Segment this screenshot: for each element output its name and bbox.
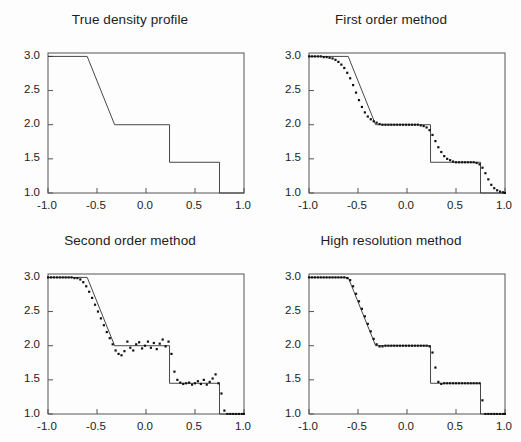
data-point: [56, 276, 58, 278]
x-tick-label: -0.5: [337, 200, 377, 212]
data-point: [217, 382, 219, 384]
data-point: [203, 379, 205, 381]
data-point: [423, 345, 425, 347]
x-tick-label: -1.0: [288, 421, 328, 433]
data-point: [399, 124, 401, 126]
data-point: [370, 118, 372, 120]
data-point: [490, 184, 492, 186]
data-point: [470, 382, 472, 384]
data-point: [367, 115, 369, 117]
data-point: [487, 413, 489, 415]
data-point: [484, 172, 486, 174]
data-point: [176, 379, 178, 381]
data-point: [334, 276, 336, 278]
numerical-solution-markers: [308, 55, 506, 194]
plot-frame: [309, 274, 505, 414]
data-point: [120, 354, 122, 356]
data-point: [317, 276, 319, 278]
numerical-solution-markers: [308, 276, 506, 415]
data-point: [420, 124, 422, 126]
data-point: [328, 57, 330, 59]
data-point: [367, 323, 369, 325]
plot-frame: [48, 53, 244, 193]
plot-frame: [309, 53, 505, 193]
data-point: [426, 126, 428, 128]
data-point: [440, 151, 442, 153]
data-point: [414, 345, 416, 347]
x-tick-label: 0.0: [125, 200, 165, 212]
data-point: [220, 392, 222, 394]
data-point: [346, 277, 348, 279]
data-point: [50, 276, 52, 278]
y-tick-label: 3.0: [8, 271, 40, 283]
data-point: [311, 55, 313, 57]
data-point: [112, 343, 114, 345]
data-point: [314, 55, 316, 57]
y-tick-label: 1.0: [269, 187, 301, 199]
y-tick-label: 2.5: [8, 305, 40, 317]
data-point: [502, 191, 504, 193]
data-point: [355, 293, 357, 295]
data-point: [443, 155, 445, 157]
data-point: [408, 345, 410, 347]
numerical-solution-markers: [47, 276, 245, 415]
x-tick-label: 0.5: [174, 200, 214, 212]
data-point: [475, 162, 477, 164]
data-point: [384, 345, 386, 347]
data-point: [62, 276, 64, 278]
data-point: [91, 297, 93, 299]
data-point: [238, 413, 240, 415]
data-point: [65, 276, 67, 278]
y-tick-label: 2.5: [269, 305, 301, 317]
data-point: [358, 300, 360, 302]
data-point: [493, 187, 495, 189]
panel-first-order-method: First order method3.02.52.01.51.0-1.0-0.…: [261, 0, 521, 221]
plot-area: [47, 52, 243, 192]
data-point: [376, 343, 378, 345]
data-point: [423, 125, 425, 127]
data-point: [235, 413, 237, 415]
data-point: [390, 124, 392, 126]
y-tick-label: 1.5: [8, 152, 40, 164]
data-point: [449, 159, 451, 161]
data-point: [384, 124, 386, 126]
data-point: [308, 276, 310, 278]
data-point: [156, 348, 158, 350]
data-point: [355, 92, 357, 94]
data-point: [387, 124, 389, 126]
y-tick-label: 3.0: [8, 50, 40, 62]
data-point: [434, 366, 436, 368]
data-point: [94, 304, 96, 306]
data-point: [428, 345, 430, 347]
plot-frame: [48, 274, 244, 414]
plot-svg: [47, 52, 245, 194]
data-point: [132, 349, 134, 351]
data-point: [467, 382, 469, 384]
data-point: [200, 383, 202, 385]
data-point: [396, 345, 398, 347]
data-point: [361, 308, 363, 310]
data-point: [361, 106, 363, 108]
y-tick-label: 1.5: [8, 373, 40, 385]
data-point: [493, 413, 495, 415]
x-tick-label: -0.5: [337, 421, 377, 433]
data-point: [150, 347, 152, 349]
data-point: [147, 341, 149, 343]
data-point: [115, 349, 117, 351]
data-point: [179, 381, 181, 383]
data-point: [364, 111, 366, 113]
plot-area: [47, 273, 243, 413]
data-point: [334, 59, 336, 61]
data-point: [76, 277, 78, 279]
data-point: [343, 276, 345, 278]
data-point: [473, 161, 475, 163]
y-tick-label: 2.5: [269, 84, 301, 96]
data-point: [232, 413, 234, 415]
data-point: [340, 64, 342, 66]
data-point: [470, 161, 472, 163]
data-point: [117, 353, 119, 355]
data-point: [490, 413, 492, 415]
data-point: [431, 134, 433, 136]
x-tick-label: 0.0: [386, 200, 426, 212]
data-point: [378, 123, 380, 125]
